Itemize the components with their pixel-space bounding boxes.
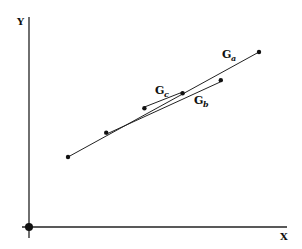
svg-text:c: c [164,89,169,99]
svg-text:G: G [194,94,203,107]
y-axis-label: Y [16,16,25,27]
svg-text:G: G [222,48,231,61]
x-axis-label: X [280,231,288,242]
data-point [142,106,146,110]
regression-lines-diagram: Y X G a G b G c [0,0,302,249]
label-gc: G c [155,84,169,99]
svg-text:b: b [203,99,209,109]
data-point [180,91,184,95]
origin-marker [25,223,33,231]
label-gb: G b [194,94,209,109]
line-ga [68,52,259,157]
data-point [219,78,223,82]
data-point [66,155,70,159]
label-ga: G a [222,48,236,63]
data-point [257,50,261,54]
svg-text:G: G [155,84,164,97]
svg-text:a: a [231,53,236,63]
data-point [104,130,108,134]
